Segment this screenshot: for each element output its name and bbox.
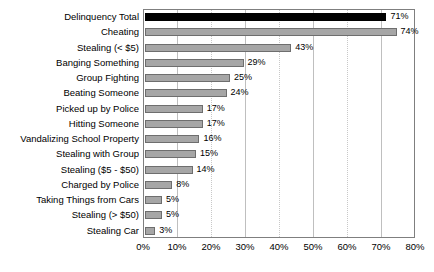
bar-row: 16%	[144, 132, 414, 147]
bar-row: 74%	[144, 25, 414, 40]
bar-row: 24%	[144, 86, 414, 101]
x-tick-label: 60%	[337, 240, 356, 254]
category-label: Vandalizing School Property	[0, 131, 139, 146]
bar-row: 71%	[144, 10, 414, 25]
category-label: Stealing Car	[0, 223, 139, 238]
bar-value-label: 43%	[295, 40, 313, 54]
category-label: Picked up by Police	[0, 101, 139, 116]
bar	[145, 44, 291, 52]
bar-row: 3%	[144, 224, 414, 239]
x-tick-label: 50%	[303, 240, 322, 254]
bar	[145, 89, 227, 97]
bar-value-label: 5%	[166, 207, 179, 221]
category-axis-labels: Delinquency TotalCheatingStealing (< $5)…	[0, 9, 139, 238]
bar-value-label: 74%	[401, 24, 419, 38]
x-tick-label: 20%	[201, 240, 220, 254]
bar-value-label: 25%	[234, 70, 252, 84]
bar	[145, 105, 203, 113]
bar-value-label: 71%	[390, 9, 408, 23]
bar-chart: Delinquency TotalCheatingStealing (< $5)…	[0, 0, 434, 272]
bar-value-label: 3%	[159, 223, 172, 237]
x-tick-label: 70%	[371, 240, 390, 254]
bar-value-label: 24%	[231, 85, 249, 99]
bar-value-label: 16%	[203, 131, 221, 145]
x-tick-label: 40%	[269, 240, 288, 254]
bar-value-label: 17%	[207, 116, 225, 130]
bar-row: 5%	[144, 208, 414, 223]
category-label: Cheating	[0, 24, 139, 39]
bar	[145, 28, 397, 36]
category-label: Group Fighting	[0, 70, 139, 85]
bar	[145, 135, 199, 143]
bar-value-label: 14%	[197, 162, 215, 176]
plot-area: 71%74%43%29%25%24%17%17%16%15%14%8%5%5%3…	[143, 9, 415, 238]
category-label: Charged by Police	[0, 177, 139, 192]
bar-row: 29%	[144, 56, 414, 71]
bar	[145, 150, 196, 158]
x-tick-label: 10%	[167, 240, 186, 254]
bar-value-label: 5%	[166, 192, 179, 206]
category-label: Beating Someone	[0, 85, 139, 100]
category-label: Delinquency Total	[0, 9, 139, 24]
category-label: Stealing (< $5)	[0, 40, 139, 55]
bar	[145, 181, 172, 189]
bar-row: 15%	[144, 147, 414, 162]
bar	[145, 74, 230, 82]
bar-row: 5%	[144, 193, 414, 208]
bar-value-label: 29%	[248, 55, 266, 69]
bar	[145, 211, 162, 219]
bar	[145, 120, 203, 128]
category-label: Banging Something	[0, 55, 139, 70]
bar-row: 8%	[144, 178, 414, 193]
bar	[145, 59, 244, 67]
category-label: Stealing with Group	[0, 146, 139, 161]
bar-rows: 71%74%43%29%25%24%17%17%16%15%14%8%5%5%3…	[144, 10, 414, 237]
category-label: Stealing ($5 - $50)	[0, 162, 139, 177]
bar-value-label: 8%	[176, 177, 189, 191]
bar	[145, 227, 155, 235]
x-tick-label: 30%	[235, 240, 254, 254]
x-axis-tick-labels: 0%10%20%30%40%50%60%70%80%	[0, 240, 434, 256]
category-label: Hitting Someone	[0, 116, 139, 131]
bar	[145, 166, 193, 174]
category-label: Stealing (> $50)	[0, 207, 139, 222]
x-tick-label: 80%	[405, 240, 424, 254]
bar-value-label: 17%	[207, 101, 225, 115]
bar	[145, 13, 386, 21]
bar-row: 17%	[144, 102, 414, 117]
category-label: Taking Things from Cars	[0, 192, 139, 207]
x-tick-label: 0%	[136, 240, 150, 254]
bar-row: 25%	[144, 71, 414, 86]
bar	[145, 196, 162, 204]
bar-value-label: 15%	[200, 146, 218, 160]
bar-row: 14%	[144, 163, 414, 178]
bar-row: 17%	[144, 117, 414, 132]
bar-row: 43%	[144, 41, 414, 56]
